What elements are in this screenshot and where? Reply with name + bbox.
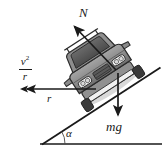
centripetal-acceleration-label: v2 r	[13, 56, 37, 82]
incline-angle-arc	[62, 131, 65, 144]
weight-label: mg	[106, 120, 122, 133]
centripetal-exponent: 2	[26, 54, 30, 62]
centripetal-denominator: r	[13, 71, 37, 83]
centripetal-numerator: v2	[13, 56, 37, 68]
incline-angle-label: α	[66, 128, 72, 139]
normal-force-label: N	[79, 6, 88, 19]
physics-diagram: N mg r α v2 r	[0, 0, 167, 153]
car-illustration	[49, 18, 148, 114]
radius-label: r	[47, 93, 51, 104]
centripetal-second-arrowhead	[20, 86, 28, 93]
